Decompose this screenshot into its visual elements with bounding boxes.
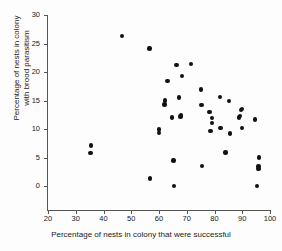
x-tick: 50 (131, 210, 132, 214)
data-point (199, 87, 203, 91)
data-point (223, 150, 227, 154)
data-point (163, 98, 167, 102)
y-tick-label: 30 (32, 11, 40, 19)
x-tick-label: 70 (183, 215, 191, 223)
data-point (199, 103, 203, 107)
data-point (170, 115, 174, 119)
x-tick: 60 (159, 210, 160, 214)
x-tick: 40 (104, 210, 105, 214)
y-tick: 0 (44, 186, 48, 187)
data-point (157, 127, 161, 131)
data-point (256, 164, 260, 168)
data-point (180, 74, 184, 78)
y-tick-label: 20 (32, 68, 40, 76)
y-tick: 30 (44, 15, 48, 16)
y-tick: 25 (44, 44, 48, 45)
data-point (257, 155, 261, 159)
data-point (189, 62, 193, 66)
data-point (210, 116, 214, 120)
y-axis-title: Percentage of nests in colony with brood… (12, 0, 32, 163)
data-point (227, 99, 231, 103)
data-point (174, 63, 178, 67)
x-tick: 70 (187, 210, 188, 214)
x-tick: 80 (215, 210, 216, 214)
x-tick-label: 30 (72, 215, 80, 223)
data-point (228, 131, 232, 135)
data-point (147, 46, 151, 50)
y-tick-label: 5 (36, 154, 40, 162)
data-point (240, 107, 244, 111)
data-point (171, 158, 175, 162)
y-tick: 20 (44, 72, 48, 73)
y-tick-label: 15 (32, 97, 40, 105)
y-tick-label: 10 (32, 125, 40, 133)
y-axis-title-line1: Percentage of nests in colony (12, 0, 22, 163)
scatter-plot-figure: 051015202530 2030405060708090100 Percent… (0, 0, 282, 251)
y-tick: 5 (44, 158, 48, 159)
x-tick-label: 90 (238, 215, 246, 223)
y-tick: 10 (44, 129, 48, 130)
x-tick: 100 (270, 210, 271, 214)
plot-area: 051015202530 2030405060708090100 (48, 15, 270, 186)
data-point (208, 129, 212, 133)
data-point (177, 95, 181, 99)
x-axis-title: Percentage of nests in colony that were … (0, 231, 282, 240)
data-point (88, 151, 92, 155)
data-point (210, 121, 214, 125)
data-point (120, 34, 124, 38)
x-tick-label: 40 (99, 215, 107, 223)
data-point (89, 143, 93, 147)
y-tick-label: 0 (36, 182, 40, 190)
data-point (172, 184, 176, 188)
x-tick-label: 50 (127, 215, 135, 223)
data-point (200, 164, 204, 168)
x-tick: 90 (242, 210, 243, 214)
data-point (238, 114, 242, 118)
data-point (162, 102, 166, 106)
data-point (165, 79, 169, 83)
data-point (207, 110, 211, 114)
data-point (148, 176, 152, 180)
x-tick-label: 100 (264, 215, 277, 223)
y-axis-title-line2: with brood parasitism (22, 0, 32, 163)
x-tick-label: 60 (155, 215, 163, 223)
x-tick-label: 80 (210, 215, 218, 223)
x-tick: 30 (76, 210, 77, 214)
x-tick: 20 (48, 210, 49, 214)
x-tick-label: 20 (44, 215, 52, 223)
data-point (255, 184, 259, 188)
y-tick-label: 25 (32, 40, 40, 48)
data-point (218, 95, 222, 99)
data-point (253, 117, 257, 121)
y-tick: 15 (44, 101, 48, 102)
data-point (218, 126, 222, 130)
data-point (240, 126, 244, 130)
